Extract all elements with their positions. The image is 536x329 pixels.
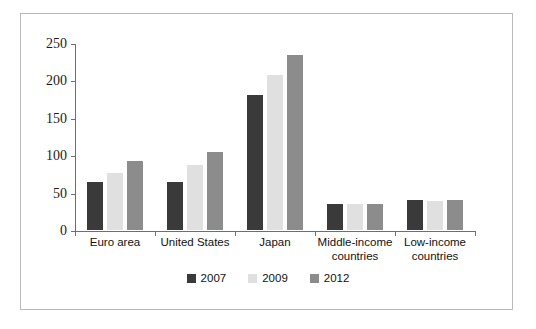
- legend-swatch-icon: [187, 274, 196, 283]
- bar: [86, 181, 104, 231]
- legend-label: 2012: [324, 272, 350, 284]
- bar: [346, 203, 364, 231]
- chart-figure: 050100150200250 Euro areaUnited StatesJa…: [0, 0, 536, 329]
- legend-entry: 2012: [310, 272, 350, 284]
- legend-swatch-icon: [248, 274, 257, 283]
- plot-area: [75, 44, 475, 231]
- y-tick-label: 250: [38, 37, 67, 51]
- x-axis-category-label: Low-income countries: [385, 236, 485, 263]
- chart-legend: 200720092012: [0, 272, 536, 284]
- legend-label: 2007: [201, 272, 227, 284]
- bar: [266, 74, 284, 231]
- y-tick-label: 200: [38, 74, 67, 88]
- bar: [206, 151, 224, 231]
- bar: [106, 172, 124, 231]
- bar: [246, 94, 264, 231]
- x-axis-line: [75, 231, 476, 232]
- legend-entry: 2007: [187, 272, 227, 284]
- bar: [406, 199, 424, 231]
- y-tick-label: 0: [38, 224, 67, 238]
- legend-entry: 2009: [248, 272, 288, 284]
- bar: [166, 181, 184, 231]
- legend-swatch-icon: [310, 274, 319, 283]
- y-tick-label: 50: [38, 187, 67, 201]
- bar: [446, 199, 464, 231]
- bar: [326, 203, 344, 231]
- bar: [286, 54, 304, 231]
- bar: [426, 200, 444, 231]
- bar: [126, 160, 144, 231]
- bar: [366, 203, 384, 231]
- y-tick-label: 100: [38, 149, 67, 163]
- y-tick-label: 150: [38, 112, 67, 126]
- bar: [186, 164, 204, 231]
- legend-label: 2009: [262, 272, 288, 284]
